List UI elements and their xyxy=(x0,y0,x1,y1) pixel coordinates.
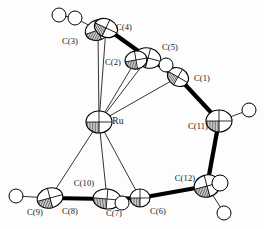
atom-h3b xyxy=(68,11,82,25)
ortep-figure: C(3)C(4)C(5)C(2)C(1)RuC(11)C(12)C(10)C(9… xyxy=(0,0,264,229)
atom-h11 xyxy=(242,103,256,117)
bond-Ru-C4 xyxy=(99,28,106,122)
atom-c8 xyxy=(35,185,65,211)
bond-Ru-C3 xyxy=(98,30,99,122)
bond-Ru-C7 xyxy=(99,122,107,199)
atom-h7 xyxy=(115,196,129,210)
atom-layer xyxy=(9,8,256,220)
atom-ru xyxy=(86,111,112,133)
atom-h5 xyxy=(159,58,173,72)
atom-c11 xyxy=(206,110,232,132)
atom-h3a xyxy=(52,8,66,22)
atom-h12b xyxy=(217,206,231,220)
bond-Ru-C6 xyxy=(99,122,140,198)
atom-h9 xyxy=(9,189,23,203)
atom-h12a xyxy=(212,175,228,191)
atom-c6 xyxy=(130,189,150,207)
structure-canvas xyxy=(0,0,264,229)
bond-Ru-C8 xyxy=(50,122,99,198)
bond-Ru-C1 xyxy=(99,77,178,122)
